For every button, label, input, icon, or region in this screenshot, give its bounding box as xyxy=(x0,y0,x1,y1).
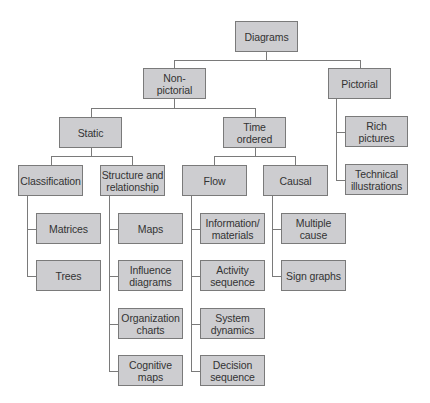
connector xyxy=(191,324,200,325)
connector xyxy=(295,156,296,165)
node-system-dynamics: System dynamics xyxy=(200,308,265,339)
connector xyxy=(51,156,52,165)
connector xyxy=(91,148,92,156)
node-information-materials: Information/ materials xyxy=(200,213,265,244)
node-causal: Causal xyxy=(263,165,328,196)
node-organization-charts: Organization charts xyxy=(118,308,183,339)
connector xyxy=(255,108,256,117)
node-structure-relationship: Structure and relationship xyxy=(100,165,165,196)
node-influence-diagrams: Influence diagrams xyxy=(118,260,183,291)
node-activity-sequence: Activity sequence xyxy=(200,260,265,291)
node-sign-graphs: Sign graphs xyxy=(281,260,346,291)
connector xyxy=(266,52,267,60)
node-matrices: Matrices xyxy=(36,213,101,244)
connector xyxy=(27,229,36,230)
node-pictorial: Pictorial xyxy=(328,68,391,99)
node-non-pictorial: Non- pictorial xyxy=(143,68,206,99)
node-multiple-cause: Multiple cause xyxy=(281,213,346,244)
node-time-ordered: Time ordered xyxy=(223,117,286,148)
connector xyxy=(336,132,345,133)
connector xyxy=(174,99,175,108)
node-trees: Trees xyxy=(36,260,101,291)
connector xyxy=(191,229,200,230)
connector xyxy=(214,156,215,165)
connector xyxy=(174,60,175,68)
node-diagrams: Diagrams xyxy=(235,21,298,52)
node-cognitive-maps: Cognitive maps xyxy=(118,355,183,386)
connector xyxy=(272,276,281,277)
node-rich-pictures: Rich pictures xyxy=(345,116,408,147)
connector xyxy=(51,156,133,157)
connector xyxy=(91,108,256,109)
diagram-tree: Diagrams Non- pictorial Pictorial Rich p… xyxy=(0,0,430,403)
connector xyxy=(109,229,118,230)
connector xyxy=(214,156,296,157)
connector xyxy=(336,99,337,181)
connector xyxy=(360,60,361,68)
connector xyxy=(336,180,345,181)
connector xyxy=(191,196,192,372)
node-decision-sequence: Decision sequence xyxy=(200,355,265,386)
node-static: Static xyxy=(59,117,122,148)
connector xyxy=(109,276,118,277)
node-flow: Flow xyxy=(182,165,247,196)
connector xyxy=(191,276,200,277)
connector xyxy=(27,276,36,277)
connector xyxy=(272,196,273,277)
connector xyxy=(132,156,133,165)
connector xyxy=(109,196,110,372)
connector xyxy=(109,324,118,325)
connector xyxy=(272,229,281,230)
node-classification: Classification xyxy=(18,165,83,196)
connector xyxy=(174,60,361,61)
connector xyxy=(191,371,200,372)
connector xyxy=(27,196,28,277)
connector xyxy=(91,108,92,117)
connector xyxy=(255,148,256,156)
connector xyxy=(109,371,118,372)
node-technical-illustrations: Technical illustrations xyxy=(345,164,408,195)
node-maps: Maps xyxy=(118,213,183,244)
